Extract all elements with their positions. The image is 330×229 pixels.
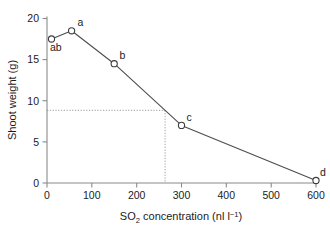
x-tick-label-100: 100 <box>83 189 101 201</box>
x-tick-label-600: 600 <box>307 189 325 201</box>
reference-lines <box>47 110 165 183</box>
data-point-markers <box>48 28 319 184</box>
x-axis-title-pre: SO <box>120 210 136 222</box>
x-tick-label-400: 400 <box>218 189 236 201</box>
data-point-b[interactable] <box>111 61 117 67</box>
data-point-label-b: b <box>120 49 126 61</box>
y-tick-label-10: 10 <box>27 95 39 107</box>
chart-figure: 20 15 10 5 0 0 100 200 300 400 500 600 <box>0 0 330 229</box>
data-point-label-c: c <box>187 111 192 123</box>
data-point-labels: ab a b c d <box>50 16 326 178</box>
x-axis-ticks <box>47 183 316 188</box>
x-axis-title-mid: concentration (nl l <box>140 210 230 222</box>
y-axis-tick-labels: 20 15 10 5 0 <box>27 12 39 189</box>
chart-plot-area: 20 15 10 5 0 0 100 200 300 400 500 600 <box>0 0 330 229</box>
y-tick-label-20: 20 <box>27 12 39 24</box>
y-tick-label-0: 0 <box>33 177 39 189</box>
data-point-d[interactable] <box>313 177 319 183</box>
data-point-a[interactable] <box>69 28 75 34</box>
data-series-line <box>52 31 317 181</box>
y-tick-label-15: 15 <box>27 53 39 65</box>
y-axis-title: Shoot weight (g) <box>6 60 18 140</box>
x-tick-label-500: 500 <box>262 189 280 201</box>
x-axis-title-post: ) <box>239 210 243 222</box>
data-point-label-a: a <box>78 16 84 28</box>
y-tick-label-5: 5 <box>33 136 39 148</box>
x-tick-label-200: 200 <box>128 189 146 201</box>
data-point-c[interactable] <box>178 122 184 128</box>
data-point-label-d: d <box>320 166 326 178</box>
x-axis-title-superscript: −1 <box>230 210 239 219</box>
data-point-label-ab: ab <box>50 41 62 53</box>
y-axis-ticks <box>43 19 48 184</box>
x-tick-label-300: 300 <box>173 189 191 201</box>
x-tick-label-0: 0 <box>44 189 50 201</box>
x-axis-tick-labels: 0 100 200 300 400 500 600 <box>44 189 325 201</box>
x-axis-title: SO2 concentration (nl l−1) <box>120 210 242 225</box>
